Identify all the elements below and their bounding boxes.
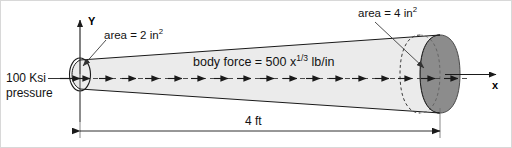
pressure-label: 100 Ksi pressure bbox=[6, 71, 53, 100]
y-axis-label: Y bbox=[88, 15, 95, 28]
area-left-label: area = 2 in2 bbox=[104, 28, 163, 42]
area-right-label: area = 4 in2 bbox=[358, 6, 417, 20]
length-dimension-label: 4 ft bbox=[245, 114, 262, 129]
figure-canvas: Y x area = 2 in2 area = 4 in2 body force… bbox=[0, 0, 512, 148]
tapered-bar-body bbox=[72, 35, 440, 113]
body-force-label: body force = 500 x1/3 lb/in bbox=[193, 55, 334, 70]
body-force-exponent: 1/3 bbox=[296, 53, 308, 63]
x-axis-label: x bbox=[492, 79, 498, 92]
pressure-label-line2: pressure bbox=[6, 86, 53, 101]
body-force-prefix: body force = 500 x bbox=[193, 55, 296, 69]
pressure-label-line1: 100 Ksi bbox=[6, 71, 53, 86]
area-left-exponent: 2 bbox=[159, 27, 163, 36]
body-force-suffix: lb/in bbox=[308, 55, 334, 69]
area-left-text: area = 2 in bbox=[104, 29, 159, 41]
area-right-exponent: 2 bbox=[413, 5, 417, 14]
area-right-text: area = 4 in bbox=[358, 7, 413, 19]
